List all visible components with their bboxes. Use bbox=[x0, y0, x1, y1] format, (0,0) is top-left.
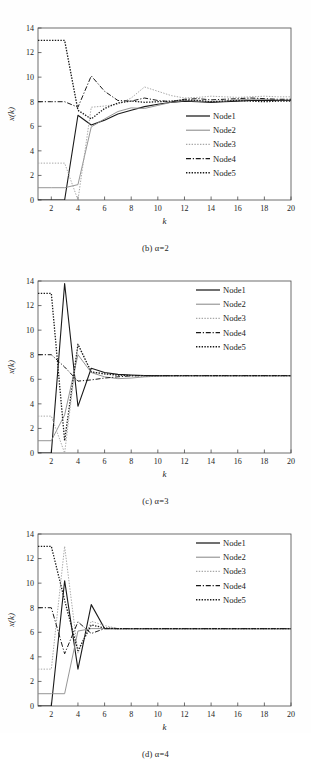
y-axis-label: x(k) bbox=[6, 360, 16, 375]
panel-caption: (c) α=3 bbox=[0, 496, 311, 506]
legend-label-node2: Node2 bbox=[213, 125, 236, 135]
legend-label-node5: Node5 bbox=[213, 168, 236, 178]
chart-svg: 246810121416182002468101214kx(k)Node1Nod… bbox=[0, 506, 311, 749]
x-tick-label: 8 bbox=[129, 204, 133, 213]
x-tick-label: 6 bbox=[103, 204, 107, 213]
x-tick-label: 2 bbox=[49, 457, 53, 466]
x-tick-label: 4 bbox=[76, 204, 80, 213]
y-tick-label: 10 bbox=[26, 579, 34, 588]
figure-panels: 246810121416182002468101214kx(k)Node1Nod… bbox=[0, 0, 311, 759]
y-tick-label: 8 bbox=[30, 604, 34, 613]
x-tick-label: 10 bbox=[154, 710, 162, 719]
y-tick-label: 14 bbox=[26, 24, 34, 33]
x-tick-label: 16 bbox=[234, 710, 242, 719]
y-tick-label: 0 bbox=[30, 196, 34, 205]
y-tick-label: 14 bbox=[26, 530, 34, 539]
y-tick-label: 12 bbox=[26, 554, 34, 563]
x-tick-label: 16 bbox=[234, 457, 242, 466]
legend-label-node1: Node1 bbox=[213, 111, 236, 121]
chart-panel: 246810121416182002468101214kx(k)Node1Nod… bbox=[0, 253, 311, 506]
chart-svg: 246810121416182002468101214kx(k)Node1Nod… bbox=[0, 0, 311, 243]
legend-label-node2: Node2 bbox=[223, 299, 246, 309]
x-tick-label: 10 bbox=[154, 204, 162, 213]
x-tick-label: 20 bbox=[287, 710, 295, 719]
chart-panel: 246810121416182002468101214kx(k)Node1Nod… bbox=[0, 0, 311, 253]
legend-label-node1: Node1 bbox=[223, 538, 246, 548]
y-tick-label: 12 bbox=[26, 301, 34, 310]
y-tick-label: 2 bbox=[30, 424, 34, 433]
x-tick-label: 20 bbox=[287, 204, 295, 213]
x-tick-label: 6 bbox=[103, 457, 107, 466]
x-tick-label: 12 bbox=[180, 457, 188, 466]
y-tick-label: 6 bbox=[30, 375, 34, 384]
x-tick-label: 2 bbox=[49, 204, 53, 213]
x-tick-label: 14 bbox=[207, 204, 215, 213]
y-tick-label: 10 bbox=[26, 73, 34, 82]
y-tick-label: 6 bbox=[30, 628, 34, 637]
y-axis-label: x(k) bbox=[6, 107, 16, 122]
chart-svg: 246810121416182002468101214kx(k)Node1Nod… bbox=[0, 253, 311, 496]
y-tick-label: 4 bbox=[30, 653, 34, 662]
legend-label-node1: Node1 bbox=[223, 285, 246, 295]
x-tick-label: 18 bbox=[260, 457, 268, 466]
x-axis-label: k bbox=[163, 722, 168, 732]
y-tick-label: 8 bbox=[30, 351, 34, 360]
y-tick-label: 8 bbox=[30, 98, 34, 107]
x-tick-label: 4 bbox=[76, 710, 80, 719]
x-tick-label: 8 bbox=[129, 457, 133, 466]
x-axis-label: k bbox=[163, 469, 168, 479]
x-tick-label: 18 bbox=[260, 204, 268, 213]
x-tick-label: 14 bbox=[207, 710, 215, 719]
y-tick-label: 4 bbox=[30, 147, 34, 156]
legend-label-node3: Node3 bbox=[223, 566, 246, 576]
legend-label-node2: Node2 bbox=[223, 552, 246, 562]
y-tick-label: 14 bbox=[26, 277, 34, 286]
y-axis-label: x(k) bbox=[6, 613, 16, 628]
y-tick-label: 4 bbox=[30, 400, 34, 409]
legend-label-node3: Node3 bbox=[213, 139, 236, 149]
x-tick-label: 6 bbox=[103, 710, 107, 719]
legend-label-node3: Node3 bbox=[223, 313, 246, 323]
x-tick-label: 2 bbox=[49, 710, 53, 719]
legend-label-node4: Node4 bbox=[223, 581, 247, 591]
x-tick-label: 10 bbox=[154, 457, 162, 466]
plot-frame bbox=[38, 534, 291, 706]
legend-label-node4: Node4 bbox=[213, 154, 237, 164]
x-tick-label: 14 bbox=[207, 457, 215, 466]
y-tick-label: 0 bbox=[30, 449, 34, 458]
legend-label-node5: Node5 bbox=[223, 595, 246, 605]
plot-frame bbox=[38, 281, 291, 453]
x-tick-label: 20 bbox=[287, 457, 295, 466]
x-tick-label: 12 bbox=[180, 204, 188, 213]
x-tick-label: 16 bbox=[234, 204, 242, 213]
legend-label-node5: Node5 bbox=[223, 342, 246, 352]
legend-label-node4: Node4 bbox=[223, 328, 247, 338]
x-axis-label: k bbox=[163, 216, 168, 226]
panel-caption: (d) α=4 bbox=[0, 749, 311, 759]
x-tick-label: 18 bbox=[260, 710, 268, 719]
x-tick-label: 4 bbox=[76, 457, 80, 466]
panel-caption: (b) α=2 bbox=[0, 243, 311, 253]
x-tick-label: 8 bbox=[129, 710, 133, 719]
plot-frame bbox=[38, 28, 291, 200]
y-tick-label: 0 bbox=[30, 702, 34, 711]
chart-panel: 246810121416182002468101214kx(k)Node1Nod… bbox=[0, 506, 311, 759]
y-tick-label: 2 bbox=[30, 677, 34, 686]
x-tick-label: 12 bbox=[180, 710, 188, 719]
y-tick-label: 6 bbox=[30, 122, 34, 131]
y-tick-label: 12 bbox=[26, 48, 34, 57]
y-tick-label: 10 bbox=[26, 326, 34, 335]
y-tick-label: 2 bbox=[30, 171, 34, 180]
